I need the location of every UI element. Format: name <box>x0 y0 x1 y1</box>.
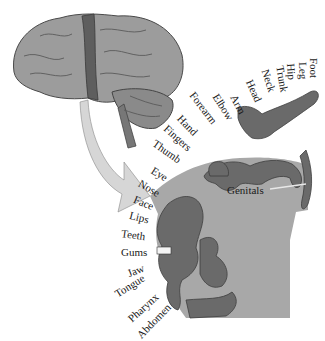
label-leg: Leg <box>297 62 309 79</box>
brain-icon <box>13 14 183 148</box>
teeth-icon <box>157 247 171 254</box>
label-foot: Foot <box>308 58 319 78</box>
label-gums: Gums <box>121 247 147 258</box>
label-genitals: Genitals <box>227 185 264 196</box>
